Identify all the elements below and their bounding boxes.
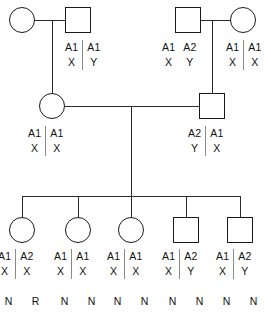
genotype-column: A2 X (15, 249, 37, 279)
genotype-column: A2 Y (233, 249, 255, 279)
genotype-column: A2 Y (184, 126, 205, 156)
genotype-column: A1 X (0, 249, 15, 279)
gen1-right-father-genotype: A1 X A2 Y (158, 40, 201, 70)
genotype-column: A1 X (71, 249, 93, 279)
sibship-drop-line-2 (78, 196, 79, 217)
gen1-right-mother-symbol[interactable] (230, 7, 256, 33)
child-5-genotype: A1 X A2 Y (212, 249, 256, 279)
child-1-symbol[interactable] (9, 217, 35, 243)
child-2-symbol[interactable] (65, 217, 91, 243)
sibship-drop-line-5 (240, 196, 241, 217)
child-3-phenotype-left: N (109, 295, 126, 307)
genotype-column: A2 Y (179, 40, 200, 70)
child-3-phenotype-right: N (136, 295, 153, 307)
genotype-column: A1 Y (82, 40, 104, 70)
child-5-phenotype-right: N (245, 295, 262, 307)
genotype-column: A1 X (158, 40, 179, 70)
genotype-column: A1 X (124, 249, 146, 279)
genotype-column: A1 X (158, 249, 179, 279)
child-5-phenotype-left: N (218, 295, 235, 307)
child-2-phenotype-right: N (83, 295, 100, 307)
child-2-genotype: A1 X A1 X (50, 249, 94, 279)
gen2-father-genotype: A2 Y A1 X (184, 126, 228, 156)
genotype-column: A1 X (243, 40, 265, 70)
gen2-father-symbol[interactable] (199, 93, 225, 119)
child-3-genotype: A1 X A1 X (103, 249, 147, 279)
child-3-symbol[interactable] (118, 217, 144, 243)
genotype-column: A1 X (24, 126, 45, 156)
gen1-left-father-symbol[interactable] (65, 7, 91, 33)
genotype-column: A1 X (61, 40, 82, 70)
genotype-column: A1 X (212, 249, 233, 279)
gen1-left-mother-symbol[interactable] (9, 7, 35, 33)
child-4-phenotype-right: N (191, 295, 208, 307)
gen2-mother-genotype: A1 X A1 X (24, 126, 68, 156)
sibship-drop-line-4 (186, 196, 187, 217)
child-4-symbol[interactable] (173, 217, 199, 243)
sibship-drop-line-1 (22, 196, 23, 217)
sibship-drop-line-3 (131, 196, 132, 217)
child-4-phenotype-left: N (164, 295, 181, 307)
genotype-column: A1 X (103, 249, 124, 279)
pedigree-diagram: A1 X A1 Y A1 X A2 Y A1 X A1 X (0, 0, 271, 314)
child-1-phenotype-right: R (27, 295, 44, 307)
child-4-genotype: A1 X A2 Y (158, 249, 202, 279)
genotype-column: A2 Y (179, 249, 201, 279)
genotype-column: A1 X (205, 126, 227, 156)
gen1-left-father-genotype: A1 X A1 Y (61, 40, 105, 70)
child-5-symbol[interactable] (227, 217, 253, 243)
gen2-descent-line (131, 106, 132, 196)
gen1-right-mother-genotype: A1 X A1 X (222, 40, 266, 70)
genotype-column: A1 X (45, 126, 67, 156)
child-2-phenotype-left: N (56, 295, 73, 307)
gen2-mother-symbol[interactable] (39, 93, 65, 119)
gen1-right-father-symbol[interactable] (175, 7, 201, 33)
child-1-genotype: A1 X A2 X (0, 249, 38, 279)
genotype-column: A1 X (50, 249, 71, 279)
child-1-phenotype-left: N (0, 295, 17, 307)
genotype-column: A1 X (222, 40, 243, 70)
